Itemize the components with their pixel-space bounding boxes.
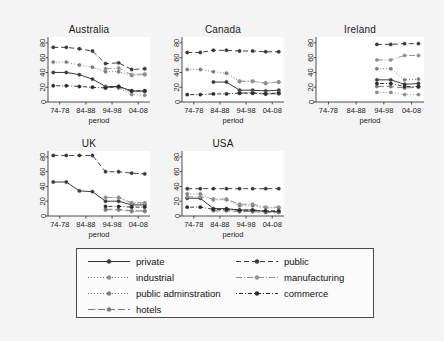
svg-text:80: 80 [39, 153, 48, 161]
data-point [104, 200, 107, 203]
data-point [143, 209, 146, 212]
data-point [238, 80, 241, 83]
legend-item-public[interactable]: public [235, 256, 309, 267]
data-point [91, 49, 94, 52]
legend-item-industrial[interactable]: industrial [87, 272, 174, 283]
svg-text:40: 40 [39, 68, 48, 76]
data-point [238, 91, 241, 94]
legend-item-hotels[interactable]: hotels [87, 304, 161, 315]
data-point [251, 49, 254, 52]
legend-item-private[interactable]: private [87, 256, 165, 267]
svg-text:20: 20 [173, 197, 182, 205]
data-point [199, 205, 202, 208]
data-point [186, 195, 189, 198]
data-point [199, 51, 202, 54]
data-point [65, 71, 68, 74]
legend-item-public-adminstration[interactable]: public adminstration [87, 288, 221, 299]
data-point [225, 208, 228, 211]
data-point [117, 170, 120, 173]
data-point [375, 91, 378, 94]
data-point [52, 46, 55, 49]
panel-ireland: Ireland02040608074-7884-8894-9804-08peri… [290, 24, 430, 128]
data-point [375, 58, 378, 61]
data-point [104, 67, 107, 70]
data-point [225, 71, 228, 74]
svg-text:0: 0 [173, 100, 182, 104]
data-point [277, 50, 280, 53]
data-point [143, 205, 146, 208]
svg-text:80: 80 [307, 39, 316, 47]
legend-swatch-industrial [87, 272, 131, 283]
legend-swatch-commerce [235, 288, 279, 299]
data-point [225, 92, 228, 95]
data-point [199, 93, 202, 96]
data-point [143, 72, 146, 75]
data-point [264, 81, 267, 84]
data-point [277, 91, 280, 94]
data-point [375, 43, 378, 46]
svg-text:40: 40 [173, 68, 182, 76]
plot-area: 02040608074-7884-8894-9804-08period [156, 138, 290, 242]
legend-swatch-hotels [87, 304, 131, 315]
data-point [91, 154, 94, 157]
data-point [277, 187, 280, 190]
data-point [403, 85, 406, 88]
data-point [143, 67, 146, 70]
data-point [52, 154, 55, 157]
data-point [65, 154, 68, 157]
data-point [403, 78, 406, 81]
data-point [78, 85, 81, 88]
svg-text:20: 20 [173, 83, 182, 91]
data-point [212, 92, 215, 95]
data-point [238, 187, 241, 190]
chart-figure: Australia02040608074-7884-8894-9804-08pe… [0, 0, 444, 341]
data-point [65, 46, 68, 49]
data-point [104, 62, 107, 65]
data-point [52, 71, 55, 74]
panel-canada: Canada02040608074-7884-8894-9804-08perio… [156, 24, 290, 128]
svg-text:74-78: 74-78 [184, 106, 203, 115]
legend-item-manufacturing[interactable]: manufacturing [235, 272, 344, 283]
plot-area: 02040608074-7884-8894-9804-08period [22, 24, 156, 128]
data-point [199, 68, 202, 71]
plot-area: 02040608074-7884-8894-9804-08period [290, 24, 430, 128]
svg-text:period: period [360, 116, 381, 125]
svg-text:80: 80 [39, 39, 48, 47]
data-point [52, 180, 55, 183]
data-point [417, 93, 420, 96]
svg-text:94-98: 94-98 [102, 220, 121, 229]
legend-item-commerce[interactable]: commerce [235, 288, 328, 299]
svg-text:74-78: 74-78 [50, 220, 69, 229]
data-point [130, 68, 133, 71]
data-point [117, 61, 120, 64]
data-point [238, 202, 241, 205]
data-point [212, 70, 215, 73]
data-point [130, 171, 133, 174]
data-point [91, 190, 94, 193]
data-point [251, 80, 254, 83]
svg-text:0: 0 [173, 214, 182, 218]
data-point [104, 205, 107, 208]
svg-text:period: period [89, 116, 110, 125]
svg-text:40: 40 [307, 68, 316, 76]
legend-label: commerce [284, 288, 328, 299]
data-point [389, 58, 392, 61]
data-point [225, 187, 228, 190]
data-point [78, 63, 81, 66]
data-point [225, 197, 228, 200]
data-point [186, 68, 189, 71]
data-point [78, 154, 81, 157]
panel-usa: USA02040608074-7884-8894-9804-08period [156, 138, 290, 242]
data-point [65, 180, 68, 183]
data-point [375, 78, 378, 81]
data-point [52, 60, 55, 63]
svg-text:84-88: 84-88 [76, 106, 95, 115]
svg-text:84-88: 84-88 [76, 220, 95, 229]
data-point [403, 93, 406, 96]
data-point [130, 209, 133, 212]
legend-label: hotels [136, 304, 161, 315]
svg-text:94-98: 94-98 [236, 220, 255, 229]
plot-area: 02040608074-7884-8894-9804-08period [22, 138, 156, 242]
data-point [389, 43, 392, 46]
svg-text:60: 60 [307, 54, 316, 62]
